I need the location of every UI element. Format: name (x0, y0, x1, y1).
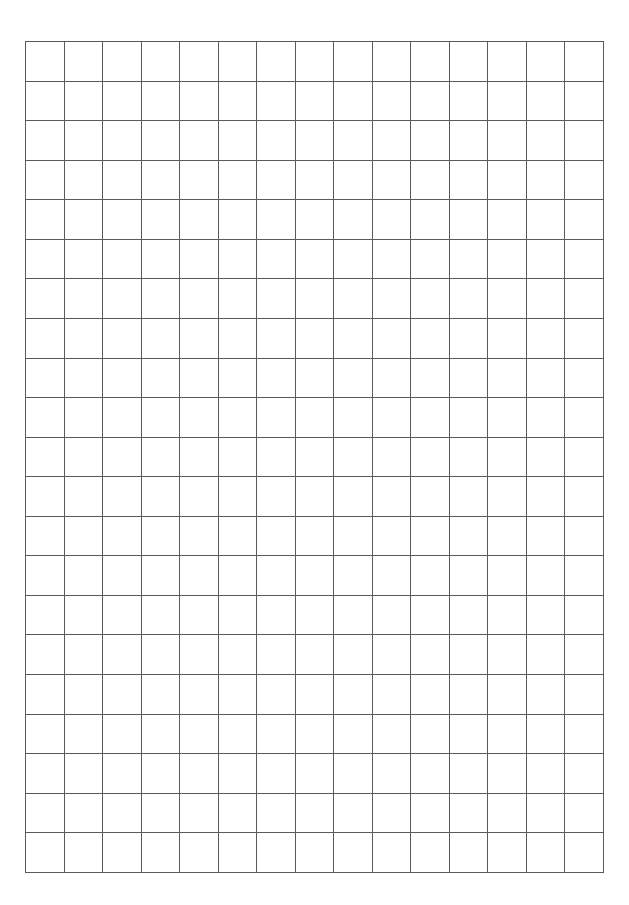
grid-cell (26, 793, 65, 833)
grid-cell (103, 81, 142, 121)
grid-cell (180, 675, 219, 715)
grid-cell (334, 239, 373, 279)
grid-cell (334, 358, 373, 398)
grid-cell (372, 358, 411, 398)
grid-cell (141, 160, 180, 200)
grid-cell (526, 793, 565, 833)
grid-cell (526, 635, 565, 675)
grid-cell (488, 81, 527, 121)
grid-cell (526, 437, 565, 477)
grid-cell (411, 437, 450, 477)
grid-cell (103, 714, 142, 754)
grid-cell (526, 42, 565, 82)
grid-cell (449, 398, 488, 438)
grid-cell (295, 437, 334, 477)
grid-row (26, 81, 604, 121)
grid-cell (218, 516, 257, 556)
grid-cell (26, 121, 65, 161)
grid-cell (411, 81, 450, 121)
grid-cell (141, 556, 180, 596)
grid-cell (449, 714, 488, 754)
grid-cell (26, 318, 65, 358)
grid-cell (180, 635, 219, 675)
grid-cell (295, 42, 334, 82)
grid-cell (411, 477, 450, 517)
grid-cell (218, 833, 257, 873)
grid-cell (565, 635, 604, 675)
grid-cell (488, 160, 527, 200)
grid-cell (257, 754, 296, 794)
grid-cell (488, 833, 527, 873)
grid-cell (218, 239, 257, 279)
grid-row (26, 556, 604, 596)
grid-row (26, 121, 604, 161)
grid-cell (565, 437, 604, 477)
grid-cell (218, 714, 257, 754)
grid-cell (295, 160, 334, 200)
grid-cell (103, 160, 142, 200)
grid-cell (372, 239, 411, 279)
grid-cell (565, 398, 604, 438)
grid-cell (141, 437, 180, 477)
grid-cell (103, 358, 142, 398)
grid-cell (488, 556, 527, 596)
grid-cell (26, 595, 65, 635)
grid-cell (26, 714, 65, 754)
grid-cell (372, 279, 411, 319)
grid-cell (103, 437, 142, 477)
grid-cell (526, 833, 565, 873)
grid-cell (411, 160, 450, 200)
grid-cell (64, 239, 103, 279)
grid-cell (372, 714, 411, 754)
grid-cell (64, 160, 103, 200)
grid-cell (411, 398, 450, 438)
grid-cell (64, 121, 103, 161)
grid-row (26, 714, 604, 754)
grid-cell (488, 200, 527, 240)
grid-cell (295, 398, 334, 438)
grid-cell (26, 437, 65, 477)
grid-cell (488, 793, 527, 833)
grid-cell (26, 160, 65, 200)
grid-cell (257, 121, 296, 161)
grid-cell (372, 477, 411, 517)
grid-cell (295, 200, 334, 240)
grid-cell (26, 239, 65, 279)
grid-cell (565, 279, 604, 319)
grid-cell (526, 675, 565, 715)
grid-cell (26, 556, 65, 596)
grid-cell (26, 516, 65, 556)
grid-cell (565, 477, 604, 517)
grid-cell (257, 793, 296, 833)
grid-cell (103, 121, 142, 161)
grid-cell (488, 42, 527, 82)
grid-cell (218, 793, 257, 833)
grid-cell (334, 595, 373, 635)
grid-cell (180, 437, 219, 477)
grid-cell (218, 754, 257, 794)
grid-cell (334, 279, 373, 319)
grid-cell (64, 754, 103, 794)
grid-cell (334, 477, 373, 517)
grid-row (26, 279, 604, 319)
grid-cell (257, 398, 296, 438)
grid-cell (295, 477, 334, 517)
grid-cell (295, 714, 334, 754)
grid-cell (180, 160, 219, 200)
grid-cell (64, 635, 103, 675)
grid-cell (180, 714, 219, 754)
grid-cell (218, 595, 257, 635)
grid-cell (295, 358, 334, 398)
grid-cell (218, 121, 257, 161)
grid-cell (334, 556, 373, 596)
page-sheet (0, 0, 629, 905)
grid-cell (565, 42, 604, 82)
grid-body (26, 42, 604, 873)
grid-cell (295, 675, 334, 715)
grid-cell (141, 477, 180, 517)
grid-cell (411, 754, 450, 794)
grid-cell (103, 200, 142, 240)
grid-cell (64, 437, 103, 477)
grid-row (26, 833, 604, 873)
grid-cell (449, 81, 488, 121)
